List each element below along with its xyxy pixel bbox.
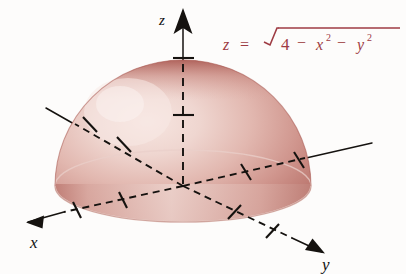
axis-y-arrowhead — [305, 239, 325, 254]
figure-canvas: x y z z = 4 − x 2 − y 2 — [0, 0, 406, 274]
equation-radicand-first: 4 — [281, 35, 290, 54]
axis-label-x: x — [29, 233, 38, 252]
hemisphere-figure: x y z z = 4 − x 2 − y 2 — [0, 0, 406, 274]
equation-label: z = 4 − x 2 − y 2 — [222, 28, 400, 54]
equation-var-x: x — [315, 36, 323, 53]
equation-lhs: z — [222, 36, 230, 53]
equation-var-y: y — [355, 36, 365, 54]
hemisphere-surface — [50, 58, 320, 228]
equation-minus-one: − — [297, 34, 306, 51]
radical-sign-icon — [264, 28, 279, 45]
equation-minus-two: − — [337, 34, 346, 51]
equation-exponent-y: 2 — [367, 32, 372, 43]
axis-label-z: z — [158, 12, 165, 28]
equation-exponent-x: 2 — [326, 32, 331, 43]
equation-equals: = — [240, 36, 249, 53]
dome-highlight-core — [96, 86, 144, 122]
tick-y-2 — [266, 224, 279, 238]
axis-label-y: y — [320, 255, 330, 274]
axis-x-arrowhead — [26, 216, 44, 229]
